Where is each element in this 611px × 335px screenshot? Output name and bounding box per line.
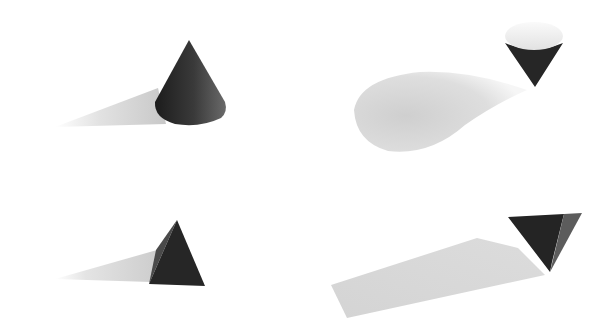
upright-cone (55, 40, 226, 127)
shapes-illustration (0, 0, 611, 335)
inverted-pyramid (331, 213, 582, 318)
upright-pyramid-shadow (55, 250, 157, 282)
inverted-cone-top (505, 22, 563, 50)
inverted-cone (354, 22, 563, 152)
upright-cone-shadow (55, 88, 166, 127)
upright-pyramid (55, 220, 205, 286)
shapes-scene (0, 0, 611, 335)
inverted-pyramid-shadow (331, 238, 545, 318)
upright-cone-body (155, 40, 226, 125)
inverted-cone-shadow (354, 72, 527, 152)
